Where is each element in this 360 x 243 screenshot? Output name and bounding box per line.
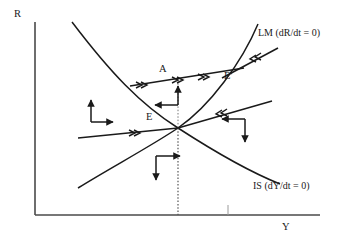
lm-curve-label: LM (dR/dt = 0) (258, 28, 320, 38)
upper-path-arrowheads (136, 74, 209, 88)
point-label-e: E (146, 112, 152, 123)
y-axis-label: R (14, 9, 21, 20)
phase-diagram-figure: R Y LM (dR/dt = 0) IS (dY/dt = 0) E A E' (0, 0, 360, 243)
point-label-a: A (159, 64, 167, 75)
incoming-lower-right-path (178, 101, 272, 128)
quadrant-arrows-east (222, 119, 245, 142)
point-label-e-prime: E' (224, 71, 232, 82)
quadrant-arrows-north (155, 86, 178, 105)
is-curve-label: IS (dY/dt = 0) (253, 181, 309, 191)
lm-curve (78, 24, 258, 188)
x-axis-label: Y (282, 222, 290, 233)
lower-saddle-path (78, 128, 178, 138)
quadrant-arrows-south (156, 156, 180, 180)
lower-path-line (78, 128, 178, 138)
quadrant-arrows-west (91, 100, 113, 122)
is-curve (72, 22, 280, 184)
